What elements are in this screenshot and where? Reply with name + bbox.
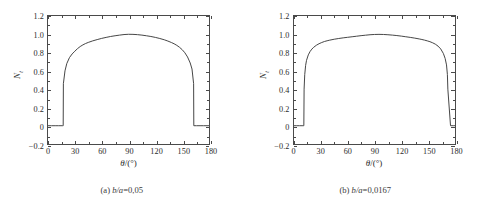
y-minor-tick-b-6-0: [294, 25, 296, 26]
y-minor-tick-a-6-0: [48, 25, 50, 26]
y-tick-label-a-7: 1.2: [33, 12, 44, 21]
x-tick-top-a-3: [130, 16, 131, 19]
x-tick-b-2: [348, 141, 349, 144]
figure-container: Nt −0.200.20.40.60.81.01.203060901201501…: [0, 0, 487, 209]
caption-a-prefix: (a): [100, 185, 110, 195]
x-minor-tick-b-1-0: [334, 142, 335, 144]
x-minor-tick-a-3-0: [143, 142, 144, 144]
plot-area-b: −0.200.20.40.60.81.01.20306090120150180: [293, 15, 456, 145]
y-minor-tick-a-4-0: [48, 62, 50, 63]
y-tick-right-a-7: [206, 16, 209, 17]
y-tick-b-6: [294, 35, 297, 36]
y-minor-tick-a-4-1: [207, 62, 209, 63]
y-minor-tick-a-1-0: [48, 118, 50, 119]
y-minor-tick-a-5-1: [207, 44, 209, 45]
y-tick-label-b-2: 0.2: [279, 104, 290, 113]
y-tick-right-a-6: [206, 35, 209, 36]
y-minor-tick-a-5-0: [48, 44, 50, 45]
y-tick-a-4: [48, 72, 51, 73]
caption-b-param: b/a: [352, 185, 363, 195]
chart-panel-b: Nt −0.200.20.40.60.81.01.203060901201501…: [244, 0, 487, 209]
x-minor-tick-a-5-1: [197, 16, 198, 18]
x-tick-a-0: [48, 141, 49, 144]
y-tick-label-b-7: 1.2: [279, 12, 290, 21]
y-minor-tick-a-0-0: [48, 137, 50, 138]
y-tick-right-b-3: [451, 90, 454, 91]
x-tick-b-1: [321, 141, 322, 144]
x-minor-tick-a-2-1: [116, 16, 117, 18]
y-tick-a-1: [48, 127, 51, 128]
y-tick-right-a-3: [206, 90, 209, 91]
x-minor-tick-b-3-1: [389, 16, 390, 18]
y-axis-title-a: Nt: [12, 71, 24, 79]
x-tick-b-3: [375, 141, 376, 144]
y-tick-b-4: [294, 72, 297, 73]
x-tick-label-a-4: 120: [150, 147, 163, 156]
y-tick-label-b-1: 0: [285, 123, 289, 132]
x-tick-a-4: [157, 141, 158, 144]
y-tick-right-a-2: [206, 109, 209, 110]
data-curve-b: [294, 16, 455, 144]
y-tick-right-b-4: [451, 72, 454, 73]
x-tick-top-b-0: [294, 16, 295, 19]
x-minor-tick-b-5-1: [443, 16, 444, 18]
y-minor-tick-b-4-0: [294, 62, 296, 63]
y-minor-tick-b-2-0: [294, 100, 296, 101]
y-tick-label-a-2: 0.2: [33, 104, 44, 113]
plot-area-a: −0.200.20.40.60.81.01.20306090120150180: [47, 15, 210, 145]
y-minor-tick-b-6-1: [453, 25, 455, 26]
x-tick-top-a-5: [184, 16, 185, 19]
data-curve-a: [48, 16, 209, 144]
caption-a-param: b/a: [112, 185, 123, 195]
caption-b-value: 0,0167: [367, 185, 391, 195]
x-minor-tick-a-5-0: [197, 142, 198, 144]
x-tick-b-0: [294, 141, 295, 144]
x-minor-tick-a-3-1: [143, 16, 144, 18]
y-minor-tick-a-6-1: [207, 25, 209, 26]
x-tick-b-5: [429, 141, 430, 144]
x-tick-a-6: [211, 141, 212, 144]
y-minor-tick-b-5-0: [294, 44, 296, 45]
y-tick-right-a-5: [206, 53, 209, 54]
x-tick-top-a-2: [102, 16, 103, 19]
y-minor-tick-b-1-1: [453, 118, 455, 119]
x-minor-tick-b-0-1: [307, 16, 308, 18]
y-minor-tick-a-1-1: [207, 118, 209, 119]
y-tick-a-6: [48, 35, 51, 36]
y-tick-label-a-0: −0.2: [29, 142, 44, 151]
y-minor-tick-a-3-0: [48, 81, 50, 82]
y-tick-right-b-5: [451, 53, 454, 54]
x-tick-label-b-6: 180: [450, 147, 463, 156]
y-tick-label-b-6: 1.0: [279, 30, 290, 39]
y-minor-tick-a-2-1: [207, 100, 209, 101]
y-minor-tick-b-2-1: [453, 100, 455, 101]
y-tick-right-b-6: [451, 35, 454, 36]
x-minor-tick-a-1-0: [89, 142, 90, 144]
x-tick-label-b-2: 60: [344, 147, 352, 156]
x-tick-top-a-0: [48, 16, 49, 19]
y-tick-right-b-2: [451, 109, 454, 110]
y-tick-right-b-7: [451, 16, 454, 17]
x-tick-label-b-0: 0: [291, 147, 295, 156]
x-minor-tick-a-4-0: [170, 142, 171, 144]
y-tick-label-a-5: 0.8: [33, 49, 44, 58]
y-minor-tick-b-0-0: [294, 137, 296, 138]
x-tick-top-a-4: [157, 16, 158, 19]
x-minor-tick-a-2-0: [116, 142, 117, 144]
x-minor-tick-a-0-0: [62, 142, 63, 144]
x-tick-label-a-2: 60: [98, 147, 106, 156]
y-tick-b-3: [294, 90, 297, 91]
x-minor-tick-b-5-0: [443, 142, 444, 144]
x-minor-tick-b-3-0: [389, 142, 390, 144]
x-tick-label-b-5: 150: [423, 147, 436, 156]
y-minor-tick-a-0-1: [207, 137, 209, 138]
x-minor-tick-b-2-1: [361, 16, 362, 18]
x-axis-title-b: θ/(°): [366, 158, 383, 168]
x-tick-a-3: [130, 141, 131, 144]
y-tick-right-a-4: [206, 72, 209, 73]
x-minor-tick-b-0-0: [307, 142, 308, 144]
x-tick-top-b-2: [348, 16, 349, 19]
y-tick-label-b-0: −0.2: [274, 142, 289, 151]
x-tick-label-a-0: 0: [46, 147, 50, 156]
y-minor-tick-b-5-1: [453, 44, 455, 45]
